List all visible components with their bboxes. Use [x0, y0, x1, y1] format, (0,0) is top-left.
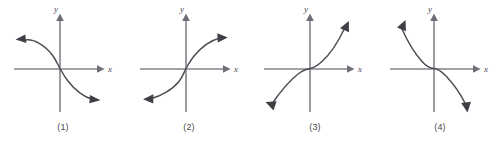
y-axis-label: y [53, 4, 58, 14]
panel-caption-3: (3) [252, 122, 378, 132]
graph-svg-2: x y [126, 0, 252, 120]
curve-arrowhead-end [89, 95, 100, 103]
curve-arrowhead-end [217, 33, 228, 42]
y-axis-label: y [303, 4, 308, 14]
curve-arrowhead-start [16, 35, 27, 43]
x-axis-arrowhead [473, 65, 481, 73]
curve-arrowhead-end [340, 21, 349, 32]
curve-arrowhead-end [461, 102, 471, 113]
graph-panel-2: x y (2) [126, 0, 252, 145]
x-axis-label: x [107, 64, 112, 74]
y-axis-label: y [179, 4, 184, 14]
y-axis-arrowhead [430, 14, 438, 22]
graph-svg-3: x y [252, 0, 378, 120]
x-axis-label: x [483, 64, 488, 74]
answer-choice-graph-figure: x y (1) x y (2) [0, 0, 503, 145]
y-axis-arrowhead [306, 14, 314, 22]
panel-caption-2: (2) [126, 122, 252, 132]
graph-svg-4: x y [377, 0, 503, 120]
x-axis-arrowhead [97, 65, 105, 73]
curve-arrowhead-start [143, 94, 153, 103]
panel-caption-4: (4) [377, 122, 503, 132]
x-axis-arrowhead [347, 65, 355, 73]
x-axis-label: x [357, 64, 362, 74]
graph-panel-3: x y (3) [252, 0, 378, 145]
x-axis-label: x [233, 64, 238, 74]
graph-panel-1: x y (1) [0, 0, 126, 145]
panel-caption-1: (1) [0, 122, 126, 132]
graph-svg-1: x y [0, 0, 126, 120]
graph-panel-4: x y (4) [377, 0, 503, 145]
curve-path [272, 29, 345, 105]
y-axis-label: y [427, 4, 432, 14]
y-axis-arrowhead [56, 14, 64, 22]
y-axis-arrowhead [182, 14, 190, 22]
curve-arrowhead-start [266, 101, 277, 110]
x-axis-arrowhead [223, 65, 231, 73]
